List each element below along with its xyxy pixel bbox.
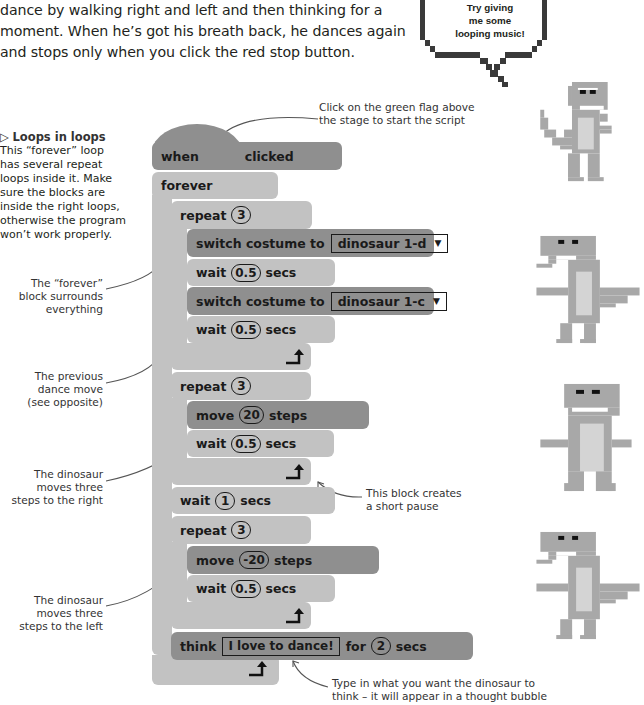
think-seconds-input[interactable]: 2 bbox=[371, 637, 391, 655]
wait-seconds-input[interactable]: 0.5 bbox=[231, 580, 260, 598]
dinosaur-costume-d-icon bbox=[532, 232, 642, 347]
wait-seconds-input[interactable]: 1 bbox=[215, 492, 235, 510]
wait-block-3[interactable]: wait 0.5 secs bbox=[187, 430, 334, 457]
wait-label: wait bbox=[196, 322, 226, 337]
wait-block-4[interactable]: wait 1 secs bbox=[171, 487, 335, 514]
wait-block-2[interactable]: wait 0.5 secs bbox=[187, 316, 335, 343]
repeat-label: repeat bbox=[180, 523, 226, 538]
dinosaur-costume-front-icon bbox=[532, 380, 632, 495]
move-label: move bbox=[196, 553, 234, 568]
wait-label: wait bbox=[196, 265, 226, 280]
repeat-block-2[interactable]: repeat 3 bbox=[171, 372, 311, 400]
repeat-1-arm bbox=[171, 226, 187, 346]
switch-costume-block-1[interactable]: switch costume to dinosaur 1-d▼ bbox=[187, 229, 434, 257]
dinosaur-costume-c-icon bbox=[520, 82, 620, 197]
steps-label: steps bbox=[269, 408, 307, 423]
repeat-label: repeat bbox=[180, 208, 226, 223]
forever-arm bbox=[152, 195, 172, 655]
move-block-2[interactable]: move -20 steps bbox=[187, 546, 379, 574]
hat-when-label: when bbox=[161, 149, 199, 164]
secs-label: secs bbox=[266, 265, 297, 280]
wait-seconds-input[interactable]: 0.5 bbox=[231, 264, 260, 282]
secs-label: secs bbox=[266, 322, 297, 337]
costume-value: dinosaur 1-c bbox=[338, 294, 425, 309]
secs-label: secs bbox=[240, 493, 271, 508]
think-label: think bbox=[180, 639, 216, 654]
wait-seconds-input[interactable]: 0.5 bbox=[231, 435, 260, 453]
move-steps-input[interactable]: -20 bbox=[239, 551, 269, 569]
for-label: for bbox=[346, 639, 366, 654]
repeat-3-arm bbox=[171, 542, 187, 604]
loop-arrow-icon bbox=[284, 349, 306, 365]
forever-label: forever bbox=[161, 178, 212, 193]
repeat-count-input[interactable]: 3 bbox=[231, 521, 251, 539]
loop-arrow-icon bbox=[284, 608, 306, 624]
wait-label: wait bbox=[196, 436, 226, 451]
dropdown-arrow-icon: ▼ bbox=[433, 296, 440, 306]
repeat-block-1[interactable]: repeat 3 bbox=[171, 201, 312, 229]
repeat-label: repeat bbox=[180, 379, 226, 394]
wait-label: wait bbox=[180, 493, 210, 508]
switch-costume-block-2[interactable]: switch costume to dinosaur 1-c▼ bbox=[187, 287, 434, 315]
repeat-2-arm bbox=[171, 398, 187, 460]
think-text-input[interactable]: I love to dance! bbox=[222, 637, 339, 656]
repeat-count-input[interactable]: 3 bbox=[231, 377, 251, 395]
switch-costume-label: switch costume to bbox=[196, 236, 325, 251]
think-block[interactable]: think I love to dance! for 2 secs bbox=[171, 632, 473, 660]
hat-clicked-label: clicked bbox=[245, 149, 294, 164]
loop-arrow-icon bbox=[247, 661, 269, 677]
move-steps-input[interactable]: 20 bbox=[239, 406, 264, 424]
wait-block-5[interactable]: wait 0.5 secs bbox=[187, 575, 335, 602]
secs-label: secs bbox=[396, 639, 427, 654]
secs-label: secs bbox=[266, 581, 297, 596]
dinosaur-costume-d-icon bbox=[532, 528, 642, 643]
wait-seconds-input[interactable]: 0.5 bbox=[231, 321, 260, 339]
dropdown-arrow-icon: ▼ bbox=[434, 238, 441, 248]
wait-block-1[interactable]: wait 0.5 secs bbox=[187, 259, 335, 286]
repeat-count-input[interactable]: 3 bbox=[231, 206, 251, 224]
when-flag-clicked-block[interactable]: when clicked bbox=[152, 142, 342, 170]
costume-value: dinosaur 1-d bbox=[338, 236, 427, 251]
costume-dropdown[interactable]: dinosaur 1-d▼ bbox=[331, 234, 449, 253]
secs-label: secs bbox=[266, 436, 297, 451]
switch-costume-label: switch costume to bbox=[196, 294, 325, 309]
costume-dropdown[interactable]: dinosaur 1-c▼ bbox=[331, 292, 447, 311]
wait-label: wait bbox=[196, 581, 226, 596]
move-label: move bbox=[196, 408, 234, 423]
steps-label: steps bbox=[274, 553, 312, 568]
repeat-block-3[interactable]: repeat 3 bbox=[171, 516, 311, 544]
move-block-1[interactable]: move 20 steps bbox=[187, 401, 369, 429]
loop-arrow-icon bbox=[284, 464, 306, 480]
